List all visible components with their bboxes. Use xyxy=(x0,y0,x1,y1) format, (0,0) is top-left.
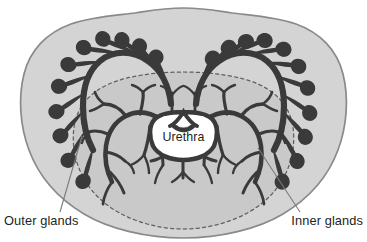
prostate-cross-section-figure: Urethra Outer glands Inner glands xyxy=(0,0,367,242)
outer-glands-label: Outer glands xyxy=(4,213,78,228)
inner-glands-label: Inner glands xyxy=(291,213,363,228)
prostate-diagram-svg: Urethra Outer glands Inner glands xyxy=(0,0,367,242)
urethra-label: Urethra xyxy=(162,130,204,144)
